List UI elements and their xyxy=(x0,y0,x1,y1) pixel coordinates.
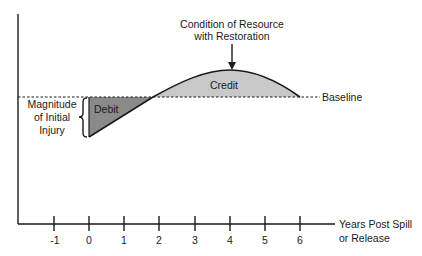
arrow-down-icon xyxy=(228,44,236,70)
injury-label-line3: Injury xyxy=(39,124,65,136)
x-axis-label-line2: or Release xyxy=(339,232,390,244)
tick-label: -1 xyxy=(50,234,59,246)
annotation-line2: with Restoration xyxy=(193,30,269,42)
tick-label: 2 xyxy=(156,234,162,246)
tick-label: 0 xyxy=(86,234,92,246)
tick-label: 5 xyxy=(262,234,268,246)
tick-label: 3 xyxy=(192,234,198,246)
restoration-diagram: -1 0 1 2 3 4 5 6 Years Post Spill or Rel… xyxy=(0,0,422,256)
injury-label-line2: of Initial xyxy=(34,111,70,123)
injury-label: Magnitude of Initial Injury xyxy=(27,98,76,136)
tick-label: 6 xyxy=(297,234,303,246)
credit-label: Credit xyxy=(210,79,238,91)
x-axis-label-line1: Years Post Spill xyxy=(339,218,412,230)
injury-label-line1: Magnitude xyxy=(27,98,76,110)
tick-label: 1 xyxy=(121,234,127,246)
x-axis-tick-labels: -1 0 1 2 3 4 5 6 xyxy=(50,234,303,246)
annotation-line1: Condition of Resource xyxy=(180,18,284,30)
tick-label: 4 xyxy=(227,234,233,246)
baseline-label: Baseline xyxy=(322,91,362,103)
debit-label: Debit xyxy=(94,103,119,115)
curly-brace-icon xyxy=(79,98,87,137)
